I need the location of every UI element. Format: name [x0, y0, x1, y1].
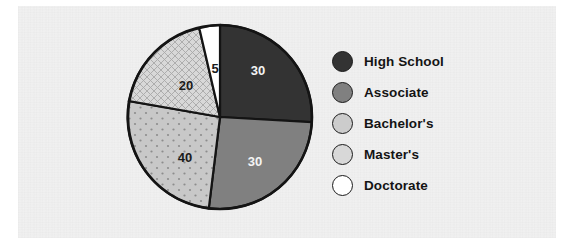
- legend-item-doctorate[interactable]: Doctorate: [332, 170, 532, 201]
- pie-value-label-high-school: 30: [251, 63, 265, 78]
- legend-swatch-doctorate: [332, 175, 353, 196]
- chart-legend: High School Associate Bachelor's Master'…: [332, 46, 532, 201]
- legend-item-masters[interactable]: Master's: [332, 139, 532, 170]
- pie-slice-bachelors[interactable]: [128, 101, 220, 208]
- legend-label-high-school: High School: [364, 54, 444, 69]
- legend-item-associate[interactable]: Associate: [332, 77, 532, 108]
- pie-value-label-bachelors: 40: [178, 150, 192, 165]
- pie-chart-figure: 30 30 40 20 5 High School Associate Bach…: [0, 0, 576, 245]
- pie-value-label-masters: 20: [179, 78, 193, 93]
- legend-label-doctorate: Doctorate: [364, 178, 428, 193]
- pie-value-label-associate: 30: [248, 154, 262, 169]
- legend-label-masters: Master's: [364, 147, 419, 162]
- legend-label-bachelors: Bachelor's: [364, 116, 434, 131]
- pie-slice-high-school[interactable]: [220, 25, 312, 122]
- legend-swatch-masters: [332, 144, 353, 165]
- legend-swatch-associate: [332, 82, 353, 103]
- legend-swatch-high-school: [332, 51, 353, 72]
- legend-label-associate: Associate: [364, 85, 429, 100]
- legend-item-bachelors[interactable]: Bachelor's: [332, 108, 532, 139]
- pie-value-label-doctorate: 5: [211, 61, 218, 76]
- legend-item-high-school[interactable]: High School: [332, 46, 532, 77]
- legend-swatch-bachelors: [332, 113, 353, 134]
